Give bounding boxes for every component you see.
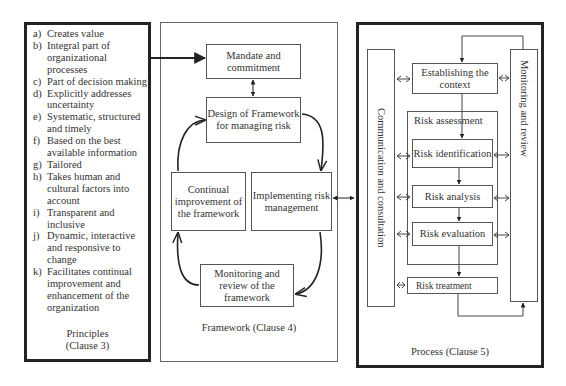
comm-analysis-link <box>397 194 410 200</box>
design-to-implementing-arrow <box>302 114 323 170</box>
monitor-identification-link <box>494 152 509 158</box>
monitor-analysis-link <box>494 195 509 201</box>
connectors-layer <box>0 0 566 386</box>
treatment-to-monitoring-arrow <box>458 294 523 316</box>
monitor-evaluation-link <box>494 232 509 238</box>
monitor-context-link <box>499 75 509 81</box>
monitoring-feedback-arrow <box>462 36 523 62</box>
comm-context-link <box>397 76 410 82</box>
comm-evaluation-link <box>397 231 410 237</box>
comm-identification-link <box>397 153 410 159</box>
continual-to-design-arrow <box>178 120 205 171</box>
comm-treatment-link <box>397 282 405 288</box>
monitoring-links <box>494 75 509 238</box>
implementing-to-monitoring-arrow <box>296 232 321 294</box>
monitoring-to-continual-arrow <box>178 233 199 285</box>
communication-links <box>397 76 410 288</box>
